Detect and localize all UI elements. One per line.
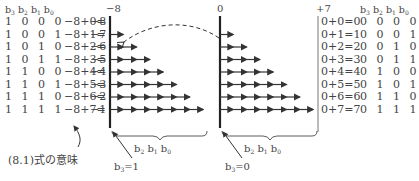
dashed-curve-arrow (124, 25, 219, 42)
caption-pointer (74, 126, 80, 147)
caption: (8.1)式の意味 (8, 155, 78, 167)
right-brace-label: b2 b1 b0 (244, 143, 281, 158)
b3-equals-0-label: b3=0 (225, 161, 250, 176)
left-brace-label: b2 b1 b0 (134, 143, 171, 158)
left-brace (112, 131, 207, 140)
right-brace (222, 131, 317, 140)
b3-equals-1-label: b3=1 (114, 161, 139, 176)
